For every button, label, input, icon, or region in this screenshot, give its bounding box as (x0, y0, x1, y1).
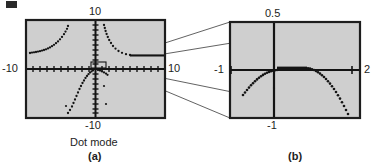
panel-b-stray-points (273, 87, 275, 89)
figure-svg (0, 0, 375, 166)
panel-a-label-bottom: -10 (85, 120, 101, 131)
panel-a-label-top: 10 (89, 6, 101, 17)
panel-b-label-left: -1 (214, 64, 224, 75)
panel-a-caption: (a) (88, 150, 101, 162)
panel-b-label-bottom: -1 (267, 120, 277, 131)
panel-a-label-left: -10 (2, 63, 18, 74)
panel-b (230, 22, 360, 118)
panel-a-label-right: 10 (168, 63, 180, 74)
panel-a-mode-label: Dot mode (70, 136, 118, 148)
panel-b-arch-apex (277, 67, 307, 69)
panel-a-asymptote-tail (130, 54, 164, 56)
panel-b-label-top: 0.5 (265, 8, 280, 19)
figure-container: 10 -10 10 -10 Dot mode (a) 0.5 -1 2 -1 (… (0, 0, 375, 166)
panel-b-caption: (b) (288, 150, 302, 162)
corner-mark-glyph (6, 1, 17, 8)
panel-b-label-right: 2 (364, 64, 370, 75)
panel-a (26, 20, 165, 118)
